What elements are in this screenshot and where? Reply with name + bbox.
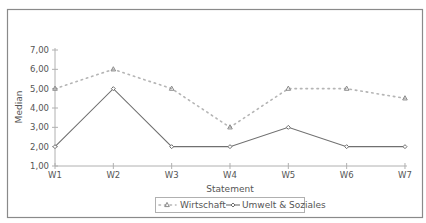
y-tick-label: 2,00 (30, 142, 49, 152)
x-tick-label: W6 (340, 170, 354, 180)
y-tick-label: 4,00 (30, 103, 49, 113)
legend: WirtschaftUmwelt & Soziales (156, 198, 327, 213)
y-axis-title: Median (14, 91, 24, 124)
y-tick-label: 6,00 (30, 64, 49, 74)
x-axis-title: Statement (206, 184, 254, 194)
x-tick-label: W5 (281, 170, 295, 180)
x-tick-label: W7 (398, 170, 412, 180)
x-tick-label: W1 (48, 170, 62, 180)
x-tick-label: W3 (165, 170, 179, 180)
line-chart: 1,002,003,004,005,006,007,00 W1W2W3W4W5W… (0, 0, 426, 223)
legend-label: Wirtschaft (180, 200, 226, 210)
x-tick-label: W2 (106, 170, 120, 180)
y-tick-label: 7,00 (30, 45, 49, 55)
y-tick-label: 1,00 (30, 161, 49, 171)
x-tick-label: W4 (223, 170, 237, 180)
legend-label: Umwelt & Soziales (242, 200, 326, 210)
y-tick-label: 5,00 (30, 84, 49, 94)
y-tick-label: 3,00 (30, 122, 49, 132)
